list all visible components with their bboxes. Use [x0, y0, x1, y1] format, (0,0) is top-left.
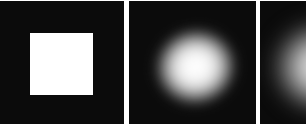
blurred-blob	[141, 11, 245, 115]
white-square	[30, 33, 93, 95]
panel-heavily-blurred-square	[260, 1, 306, 124]
heavily-blurred-blob	[270, 15, 306, 115]
panel-blurred-square	[129, 1, 256, 124]
panel-original-square	[0, 1, 124, 124]
